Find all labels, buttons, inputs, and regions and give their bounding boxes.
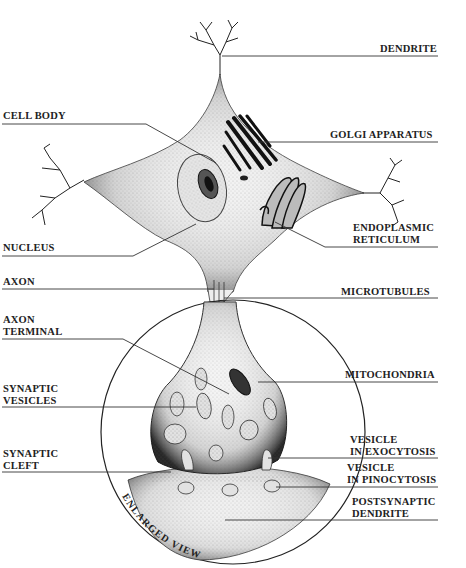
- label-mitochondria: MITOCHONDRIA: [345, 369, 435, 381]
- label-text: IN EXOCYTOSIS: [350, 446, 436, 458]
- label-text: VESICLE: [347, 462, 436, 474]
- label-text: MICROTUBULES: [341, 286, 430, 298]
- label-text: AXON: [3, 276, 35, 288]
- label-text: ENDOPLASMIC: [353, 222, 434, 234]
- dendrite-left: [32, 144, 84, 225]
- label-text: IN PINOCYTOSIS: [347, 474, 436, 486]
- label-text: CLEFT: [3, 460, 58, 472]
- label-nucleus: NUCLEUS: [3, 242, 55, 254]
- label-text: AXON: [3, 314, 62, 326]
- label-text: SYNAPTIC: [3, 383, 58, 395]
- label-text: DENDRITE: [352, 508, 436, 520]
- label-axon-terminal: AXON TERMINAL: [3, 314, 62, 338]
- label-text: POSTSYNAPTIC: [352, 496, 436, 508]
- label-text: VESICLES: [3, 395, 58, 407]
- label-text: SYNAPTIC: [3, 448, 58, 460]
- label-text: VESICLE: [350, 434, 436, 446]
- label-synaptic-vesicles: SYNAPTIC VESICLES: [3, 383, 58, 407]
- label-text: GOLGI APPARATUS: [330, 129, 433, 141]
- label-vesicle-pinocytosis: VESICLE IN PINOCYTOSIS: [347, 462, 436, 486]
- label-text: CELL BODY: [3, 110, 66, 122]
- dendrite-top: [190, 20, 238, 75]
- label-postsynaptic-dendrite: POSTSYNAPTIC DENDRITE: [352, 496, 436, 520]
- label-text: NUCLEUS: [3, 242, 55, 254]
- label-text: TERMINAL: [3, 326, 62, 338]
- label-vesicle-exocytosis: VESICLE IN EXOCYTOSIS: [350, 434, 436, 458]
- label-text: DENDRITE: [380, 43, 437, 55]
- label-microtubules: MICROTUBULES: [341, 286, 430, 298]
- label-text: RETICULUM: [353, 234, 434, 246]
- dendrite-right: [362, 158, 404, 226]
- label-endoplasmic-reticulum: ENDOPLASMIC RETICULUM: [353, 222, 434, 246]
- label-cell-body: CELL BODY: [3, 110, 66, 122]
- label-dendrite: DENDRITE: [380, 43, 437, 55]
- label-golgi-apparatus: GOLGI APPARATUS: [330, 129, 433, 141]
- label-axon: AXON: [3, 276, 35, 288]
- label-synaptic-cleft: SYNAPTIC CLEFT: [3, 448, 58, 472]
- label-text: MITOCHONDRIA: [345, 369, 435, 381]
